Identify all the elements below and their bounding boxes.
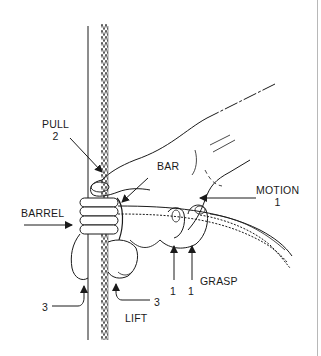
diagram-canvas: PULL 2 BAR MOTION 1 BARREL GRASP 1 1 3 3…: [0, 0, 321, 356]
label-barrel: BARREL: [21, 207, 64, 219]
label-lift: LIFT: [125, 312, 147, 324]
label-lift-step: 3: [154, 296, 160, 308]
label-motion: MOTION 1: [256, 184, 299, 208]
label-motion-step: 1: [256, 196, 299, 208]
label-pull: PULL 2: [42, 118, 69, 142]
hand-rope-illustration: [0, 0, 321, 356]
label-pull-step: 2: [42, 130, 69, 142]
lift-arrow-left: [52, 286, 84, 306]
label-grasp: GRASP: [200, 275, 238, 287]
label-bar: BAR: [157, 160, 179, 172]
label-left-step: 3: [42, 301, 48, 313]
label-grasp-step-b: 1: [188, 285, 194, 297]
pull-arrow: [70, 138, 102, 172]
lift-arrow-right: [116, 284, 150, 300]
label-grasp-step-a: 1: [170, 285, 176, 297]
barrel-coil: [80, 198, 118, 234]
label-pull-text: PULL: [42, 118, 69, 130]
label-motion-text: MOTION: [256, 184, 299, 196]
